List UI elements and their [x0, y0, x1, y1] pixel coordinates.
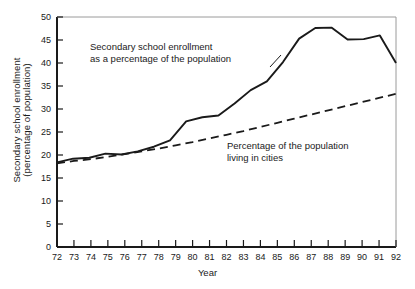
y-tick-label-50: 50	[29, 13, 51, 22]
y-axis-title: Secondary school enrollment (percentage …	[12, 5, 31, 235]
y-tick-label-45: 45	[29, 36, 51, 45]
y-axis-title-line2: (percentage of population)	[22, 5, 32, 235]
y-tick-label-15: 15	[29, 174, 51, 183]
chart-container: 05101520253035404550 7273747576777879808…	[0, 0, 415, 289]
y-tick-label-35: 35	[29, 82, 51, 91]
y-tick-label-0: 0	[29, 243, 51, 252]
x-tick-marks	[57, 240, 396, 247]
y-tick-label-30: 30	[29, 105, 51, 114]
enrollment-series-annotation: Secondary school enrollment as a percent…	[90, 41, 231, 65]
y-tick-label-10: 10	[29, 197, 51, 206]
y-tick-label-5: 5	[29, 220, 51, 229]
x-axis-title: Year	[0, 268, 415, 278]
y-tick-label-40: 40	[29, 59, 51, 68]
cities-annotation-line2: living in cities	[227, 152, 348, 164]
enrollment-annotation-line1: Secondary school enrollment	[90, 41, 231, 53]
y-tick-label-25: 25	[29, 128, 51, 137]
cities-annotation-line1: Percentage of the population	[227, 140, 348, 152]
y-tick-label-20: 20	[29, 151, 51, 160]
cities-series-annotation: Percentage of the population living in c…	[227, 140, 348, 164]
enrollment-annotation-line2: as a percentage of the population	[90, 53, 231, 65]
x-tick-label-92: 92	[386, 253, 406, 262]
